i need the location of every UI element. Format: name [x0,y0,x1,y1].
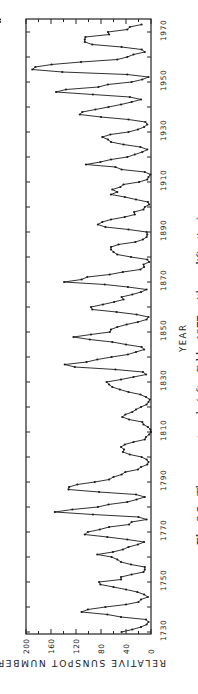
data-point-marker [119,186,121,188]
data-point-marker [64,363,66,365]
data-point-marker [142,423,144,425]
data-point-marker [128,418,130,420]
data-point-marker [140,598,142,600]
year-tick-label: 1830 [159,370,168,392]
data-point-marker [111,556,113,558]
year-tick-label: 1970 [159,20,168,42]
data-point-marker [129,96,131,98]
data-point-marker [99,583,101,585]
data-point-marker [109,133,111,135]
y-axis-label: RELATIVE SUNSPOT NUMBER [0,658,166,669]
data-point-marker [112,586,114,588]
data-point-marker [31,68,33,70]
data-point-marker [150,431,152,433]
data-point-marker [146,236,148,238]
data-point-marker [84,36,86,38]
data-point-marker [141,346,143,348]
year-tick-label: 1750 [159,570,168,592]
value-tick-label: 80 [97,644,106,654]
data-point-marker [141,48,143,50]
data-point-marker [79,113,81,115]
data-point-marker [131,101,133,103]
data-point-marker [147,401,149,403]
data-point-marker [101,221,103,223]
data-point-marker [107,31,109,33]
data-point-marker [34,66,36,68]
figure-caption: Fig. 2.3The sunspot cycle (after Eddy, 1… [194,213,198,545]
data-point-marker [143,126,145,128]
data-point-marker [146,123,148,125]
data-point-marker [129,453,131,455]
data-point-marker [110,328,112,330]
data-point-marker [89,338,91,340]
data-point-marker [99,528,101,530]
data-point-marker [72,336,74,338]
data-point-marker [116,253,118,255]
data-point-marker [116,58,118,60]
data-point-marker [97,86,99,88]
data-point-marker [146,231,148,233]
data-point-marker [144,568,146,570]
data-point-marker [137,321,139,323]
value-tick-label: 40 [122,644,131,654]
data-point-marker [120,576,122,578]
data-point-marker [111,386,113,388]
data-point-marker [148,433,150,435]
data-point-marker [128,523,130,525]
data-point-marker [145,618,147,620]
data-point-marker [125,343,127,345]
data-point-marker [67,488,69,490]
data-point-marker [111,356,113,358]
data-point-marker [127,131,129,133]
data-point-marker [96,553,98,555]
data-point-marker [116,311,118,313]
data-point-marker [108,383,110,385]
data-point-marker [112,476,114,478]
year-tick-label: 1730 [159,620,168,642]
data-point-marker [132,376,134,378]
data-point-marker [110,246,112,248]
year-tick-label: 1770 [159,520,168,542]
value-tick-label: 200 [22,638,31,654]
data-point-marker [130,256,132,258]
data-point-marker [125,603,127,605]
data-point-marker [142,208,144,210]
data-point-marker [141,456,143,458]
data-point-marker [140,626,142,628]
data-point-marker [144,171,146,173]
data-point-marker [139,146,141,148]
data-point-marker [108,33,110,35]
data-point-marker [106,381,108,383]
data-point-marker [100,116,102,118]
data-point-marker [131,411,133,413]
data-point-marker [121,296,123,298]
data-point-marker [132,441,134,443]
data-point-marker [94,481,96,483]
data-point-marker [123,448,125,450]
data-point-marker [121,168,123,170]
year-tick-label: 1870 [159,270,168,292]
data-point-marker [110,248,112,250]
data-point-marker [84,41,86,43]
data-point-marker [126,323,128,325]
data-point-marker [125,588,127,590]
data-point-marker [147,76,149,78]
data-point-marker [126,156,128,158]
value-tick-label: 160 [47,638,56,654]
data-point-marker [51,63,53,65]
data-point-marker [65,88,67,90]
data-point-marker [98,581,100,583]
data-point-marker [145,373,147,375]
data-point-marker [146,518,148,520]
data-point-marker [131,81,133,83]
data-point-marker [80,61,82,63]
data-point-marker [90,306,92,308]
year-tick-label: 1810 [159,420,168,442]
data-point-marker [117,243,119,245]
data-point-marker [86,361,88,363]
data-point-marker [0,21,1,23]
data-point-marker [137,128,139,130]
data-point-marker [121,631,123,633]
year-tick-label: 1910 [159,170,168,192]
data-point-marker [107,138,109,140]
